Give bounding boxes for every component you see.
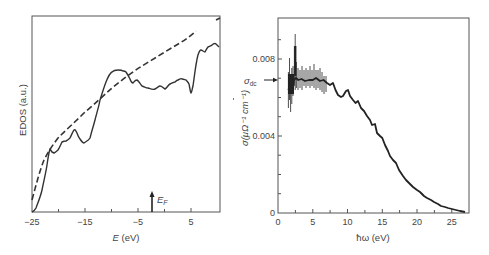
- edos-plot-frame: [32, 16, 220, 212]
- edos-x-unit: (eV): [119, 232, 140, 243]
- conductivity-y-tick-label: 0: [270, 208, 275, 218]
- conductivity-x-tick-label: 5: [310, 217, 315, 227]
- conductivity-x-tick-label: 20: [412, 217, 422, 227]
- fermi-label-sub: F: [163, 199, 168, 206]
- edos-y-axis-title: EDOS (a.u.): [17, 84, 28, 136]
- conductivity-curve: [288, 78, 465, 212]
- edos-dashed-curve-end: [216, 18, 220, 20]
- fermi-label: EF: [157, 194, 168, 206]
- edos-x-axis-title: E (eV): [113, 232, 140, 243]
- edos-x-tick-label: −25: [24, 217, 39, 227]
- edos-x-tick-label: −5: [133, 217, 143, 227]
- conductivity-y-tick-label: 0.004: [252, 131, 275, 141]
- conductivity-x-tick-label: 0: [275, 217, 280, 227]
- sigma-dc-label: dcσdc: [244, 75, 257, 87]
- conductivity-x-tick-label: 10: [342, 217, 352, 227]
- fermi-arrowhead-icon: [150, 191, 155, 197]
- conductivity-peak-block: [294, 46, 296, 76]
- edos-dashed-curve: [32, 31, 196, 200]
- conductivity-y-tick-label: 0.008: [252, 54, 275, 64]
- sigma-dc-marker: dcσdc: [244, 75, 278, 87]
- conductivity-chart: 0 5 10 15 20 25 0 0.004 0.008 ħω (eV) σ(…: [239, 18, 469, 243]
- fermi-level-marker: EF: [150, 191, 169, 212]
- conductivity-x-axis-title: ħω (eV): [356, 232, 389, 243]
- stray-mark: [233, 98, 234, 100]
- conductivity-plot-frame: [278, 18, 469, 213]
- conductivity-x-tick-label: 25: [447, 217, 457, 227]
- sigma-dc-sub: dc: [250, 80, 258, 87]
- conductivity-x-tick-label: 15: [377, 217, 387, 227]
- edos-x-tick-label: −15: [77, 217, 92, 227]
- conductivity-y-ticks: [278, 40, 282, 194]
- edos-chart: −25 −15 −5 5 E (eV) EDOS (a.u.) EF: [17, 16, 234, 243]
- sigma-dc-arrowhead-icon: [273, 78, 278, 82]
- figure: −25 −15 −5 5 E (eV) EDOS (a.u.) EF: [0, 0, 489, 255]
- conductivity-noise: [288, 34, 326, 112]
- edos-x-ticks: [59, 208, 192, 212]
- conductivity-y-axis-title: σ(μΩ⁻¹ cm⁻¹): [239, 90, 250, 146]
- edos-x-tick-label: 5: [188, 217, 193, 227]
- edos-solid-curve: [32, 44, 219, 212]
- conductivity-x-ticks: [295, 209, 451, 213]
